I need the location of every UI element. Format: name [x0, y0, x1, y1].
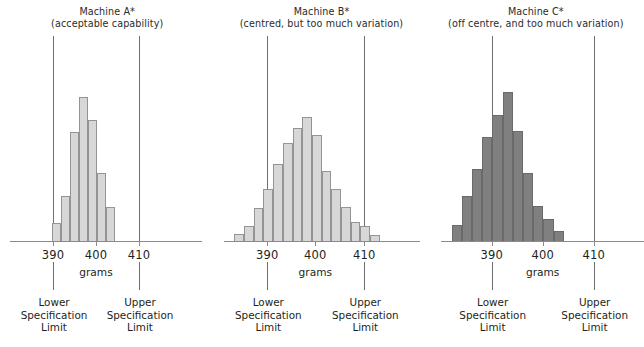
panel-c-lower-spec-line-bottom [492, 262, 493, 290]
panel-machine-c: Machine C* (off centre, and too much var… [429, 0, 643, 347]
panel-b-lower-spec-line3: Limit [220, 321, 316, 334]
panel-a-lower-spec-line3: Limit [6, 321, 102, 334]
bar [273, 164, 283, 241]
panel-b-upper-spec-line3: Limit [317, 321, 413, 334]
bar [351, 222, 361, 241]
panel-a-tick-390 [53, 242, 54, 246]
panel-b-upper-spec-line-bottom [364, 262, 365, 290]
panel-c-lower-spec-label: Lower Specification Limit [445, 296, 541, 334]
panel-a-tick-label-400: 400 [76, 248, 116, 262]
bar [234, 234, 244, 241]
panel-c-lower-spec-line3: Limit [445, 321, 541, 334]
bar [543, 219, 553, 241]
bar [523, 173, 533, 241]
bar [70, 132, 79, 241]
panel-a-plot: 390 400 410 grams Lower Specification Li… [0, 0, 214, 347]
panel-a-upper-spec-line2: Specification [92, 309, 188, 322]
panel-c-upper-spec-line1: Upper [547, 296, 643, 309]
bar [52, 223, 61, 241]
panel-c-lower-spec-line2: Specification [445, 309, 541, 322]
bar [244, 226, 254, 241]
panel-machine-b: Machine B* (centred, but too much variat… [214, 0, 428, 347]
bar [88, 120, 97, 241]
bar [312, 135, 322, 241]
bar [293, 128, 303, 241]
panel-b-tick-label-400: 400 [295, 248, 335, 262]
panel-c-tick-label-390: 390 [472, 248, 512, 262]
panel-b-tick-label-410: 410 [344, 248, 384, 262]
panel-c-upper-spec-line-bottom [594, 262, 595, 290]
bar [503, 92, 513, 241]
panel-c-upper-spec-line3: Limit [547, 321, 643, 334]
panel-a-tick-label-390: 390 [33, 248, 73, 262]
panel-a-lower-spec-line-bottom [53, 262, 54, 290]
bar [97, 173, 106, 241]
panel-c-tick-410 [594, 242, 595, 246]
panel-a-bars [0, 0, 214, 241]
bar [61, 196, 70, 241]
bar [254, 208, 264, 241]
panel-a-upper-spec-line-bottom [139, 262, 140, 290]
panel-machine-a: Machine A* (acceptable capability) [0, 0, 214, 347]
panel-c-plot: 390 400 410 grams Lower Specification Li… [429, 0, 643, 347]
bar [554, 231, 564, 241]
panel-c-upper-spec-line2: Specification [547, 309, 643, 322]
panel-b-tick-label-390: 390 [247, 248, 287, 262]
bar [322, 171, 332, 241]
panel-c-tick-label-400: 400 [523, 248, 563, 262]
panel-c-tick-390 [492, 242, 493, 246]
panel-b-plot: 390 400 410 grams Lower Specification Li… [214, 0, 428, 347]
bar [482, 137, 492, 241]
bar [513, 131, 523, 241]
panel-c-tick-400 [543, 242, 544, 246]
bar [360, 226, 370, 241]
panel-b-upper-spec-line2: Specification [317, 309, 413, 322]
bar [462, 196, 472, 241]
panel-b-upper-spec-label: Upper Specification Limit [317, 296, 413, 334]
panel-b-lower-spec-line-bottom [267, 262, 268, 290]
bar [263, 189, 273, 241]
panel-b-x-axis [224, 241, 420, 242]
panel-a-units-label: grams [56, 266, 136, 278]
panel-a-lower-spec-label: Lower Specification Limit [6, 296, 102, 334]
bar [283, 143, 293, 241]
panel-a-lower-spec-line1: Lower [6, 296, 102, 309]
panel-a-upper-spec-label: Upper Specification Limit [92, 296, 188, 334]
bar [79, 97, 88, 241]
bar [341, 207, 351, 241]
bar [472, 169, 482, 241]
panel-b-tick-410 [364, 242, 365, 246]
panel-b-tick-400 [315, 242, 316, 246]
panel-b-units-label: grams [275, 266, 355, 278]
bar [331, 189, 341, 241]
panel-c-units-label: grams [503, 266, 583, 278]
panel-a-tick-label-410: 410 [119, 248, 159, 262]
panel-a-tick-400 [96, 242, 97, 246]
panel-b-lower-spec-line1: Lower [220, 296, 316, 309]
panel-a-x-axis [10, 241, 202, 242]
bar [533, 206, 543, 241]
panel-b-bars [214, 0, 428, 241]
panel-a-upper-spec-line3: Limit [92, 321, 188, 334]
bar [302, 117, 312, 241]
panel-c-bars [429, 0, 644, 241]
panel-a-lower-spec-line2: Specification [6, 309, 102, 322]
panel-b-upper-spec-line1: Upper [317, 296, 413, 309]
bar [106, 207, 115, 241]
panel-c-lower-spec-line1: Lower [445, 296, 541, 309]
panel-c-upper-spec-label: Upper Specification Limit [547, 296, 643, 334]
bar [492, 115, 502, 241]
panel-b-lower-spec-line2: Specification [220, 309, 316, 322]
panel-b-lower-spec-label: Lower Specification Limit [220, 296, 316, 334]
panel-a-upper-spec-line1: Upper [92, 296, 188, 309]
bar [452, 225, 462, 241]
panel-c-tick-label-410: 410 [574, 248, 614, 262]
panel-b-tick-390 [267, 242, 268, 246]
panel-a-tick-410 [139, 242, 140, 246]
